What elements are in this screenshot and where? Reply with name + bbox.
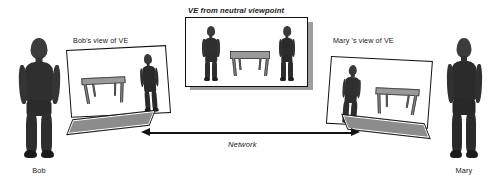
center-panel-avatar-bob [200, 26, 222, 82]
right-screen-display [326, 56, 433, 129]
center-panel-screen [185, 17, 308, 87]
left-screen-title: Bob's view of VE [73, 36, 128, 45]
center-panel-avatar-mary [276, 26, 298, 82]
center-panel-title: VE from neutral viewpoint [188, 6, 284, 15]
center-panel-shadow [308, 22, 313, 90]
person-bob-label: Bob [18, 166, 60, 175]
left-screen-virtual-table [81, 76, 127, 106]
person-bob [16, 38, 62, 160]
network-arrow-line [149, 132, 352, 133]
left-screen-display [66, 45, 171, 118]
person-mary [442, 38, 486, 160]
right-screen-avatar-bob [337, 65, 365, 124]
right-screen-assembly [329, 48, 439, 132]
virtual-environment-diagram: VE from neutral viewpoint [0, 0, 500, 186]
person-mary-label: Mary [443, 166, 485, 175]
right-screen-title: Mary 's view of VE [333, 36, 394, 45]
network-arrow-head-right [351, 128, 360, 136]
center-panel-virtual-table [230, 51, 270, 77]
left-screen-avatar-mary [136, 53, 164, 112]
network-label: Network [228, 140, 257, 149]
left-screen-assembly [66, 48, 172, 132]
right-screen-virtual-table [374, 87, 420, 117]
